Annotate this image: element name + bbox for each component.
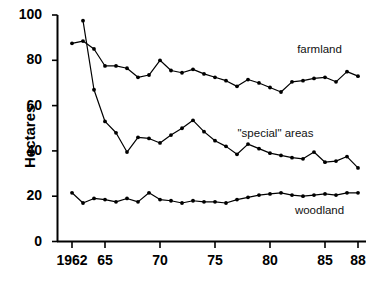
- series-marker-special-areas: [213, 139, 217, 143]
- series-marker-woodland: [103, 198, 107, 202]
- y-axis-tick-label: 80: [8, 51, 42, 67]
- series-marker-farmland: [290, 80, 294, 84]
- series-marker-woodland: [290, 193, 294, 197]
- series-marker-farmland: [334, 80, 338, 84]
- series-marker-woodland: [70, 191, 74, 195]
- series-marker-special-areas: [125, 150, 129, 154]
- series-marker-farmland: [191, 67, 195, 71]
- series-marker-woodland: [323, 192, 327, 196]
- series-marker-woodland: [224, 201, 228, 205]
- series-marker-farmland: [268, 86, 272, 90]
- x-axis-tick-label: 75: [185, 252, 245, 268]
- series-marker-farmland: [279, 90, 283, 94]
- series-marker-farmland: [312, 77, 316, 81]
- series-marker-woodland: [180, 201, 184, 205]
- y-axis-title: Hectares: [21, 105, 38, 168]
- series-marker-special-areas: [158, 141, 162, 145]
- series-marker-special-areas: [169, 133, 173, 137]
- series-marker-special-areas: [323, 160, 327, 164]
- series-marker-farmland: [356, 74, 360, 78]
- series-annotation-label: "special" areas: [238, 127, 314, 139]
- figure-container: Hectares 020406080100 1962657075808588 f…: [0, 0, 383, 289]
- series-marker-woodland: [312, 193, 316, 197]
- series-annotation-label: farmland: [297, 43, 342, 55]
- series-marker-special-areas: [334, 159, 338, 163]
- series-marker-special-areas: [312, 150, 316, 154]
- series-marker-farmland: [180, 71, 184, 75]
- series-marker-special-areas: [268, 151, 272, 155]
- series-marker-woodland: [114, 200, 118, 204]
- y-axis-tick-label: 60: [8, 97, 42, 113]
- x-axis-tick-label: 88: [328, 252, 383, 268]
- series-marker-farmland: [301, 79, 305, 83]
- series-marker-special-areas: [246, 142, 250, 146]
- series-marker-farmland: [169, 69, 173, 73]
- series-marker-farmland: [323, 75, 327, 79]
- series-marker-farmland: [213, 75, 217, 79]
- series-marker-woodland: [147, 191, 151, 195]
- series-marker-special-areas: [114, 131, 118, 135]
- series-marker-woodland: [125, 197, 129, 201]
- x-axis-tick-label: 65: [75, 252, 135, 268]
- series-marker-special-areas: [224, 144, 228, 148]
- series-marker-special-areas: [257, 147, 261, 151]
- y-axis-tick-label: 20: [8, 187, 42, 203]
- x-axis-tick-label: 70: [130, 252, 190, 268]
- series-marker-woodland: [191, 199, 195, 203]
- series-marker-woodland: [158, 198, 162, 202]
- series-marker-woodland: [268, 192, 272, 196]
- series-marker-woodland: [334, 193, 338, 197]
- series-marker-woodland: [246, 195, 250, 199]
- series-marker-farmland: [224, 79, 228, 83]
- series-marker-farmland: [103, 64, 107, 68]
- series-marker-special-areas: [279, 154, 283, 158]
- series-marker-woodland: [301, 194, 305, 198]
- series-marker-special-areas: [356, 166, 360, 170]
- series-marker-woodland: [202, 200, 206, 204]
- series-marker-woodland: [235, 198, 239, 202]
- series-marker-special-areas: [81, 19, 85, 23]
- series-marker-farmland: [345, 70, 349, 74]
- series-marker-special-areas: [301, 157, 305, 161]
- series-marker-woodland: [92, 197, 96, 201]
- series-annotation-label: woodland: [295, 204, 344, 216]
- y-axis-tick-label: 40: [8, 142, 42, 158]
- series-marker-woodland: [136, 200, 140, 204]
- series-marker-special-areas: [147, 137, 151, 141]
- series-marker-farmland: [136, 75, 140, 79]
- series-marker-farmland: [92, 47, 96, 51]
- series-marker-special-areas: [235, 152, 239, 156]
- series-marker-woodland: [81, 201, 85, 205]
- series-marker-special-areas: [136, 135, 140, 139]
- series-marker-woodland: [356, 191, 360, 195]
- series-marker-special-areas: [191, 118, 195, 122]
- series-marker-special-areas: [103, 120, 107, 124]
- series-marker-special-areas: [92, 88, 96, 92]
- x-axis-tick-label: 80: [240, 252, 300, 268]
- series-marker-woodland: [213, 200, 217, 204]
- series-marker-farmland: [70, 41, 74, 45]
- series-marker-special-areas: [290, 156, 294, 160]
- series-marker-special-areas: [345, 155, 349, 159]
- y-axis-tick-label: 100: [8, 6, 42, 22]
- series-marker-farmland: [202, 72, 206, 76]
- series-woodland: [70, 191, 360, 205]
- series-marker-farmland: [81, 39, 85, 43]
- series-marker-farmland: [158, 58, 162, 62]
- series-marker-farmland: [125, 66, 129, 70]
- series-marker-special-areas: [202, 130, 206, 134]
- y-axis-tick-label: 0: [8, 233, 42, 249]
- series-special-areas: [81, 19, 360, 170]
- series-marker-woodland: [345, 191, 349, 195]
- series-marker-farmland: [257, 81, 261, 85]
- series-marker-farmland: [114, 64, 118, 68]
- series-marker-woodland: [279, 191, 283, 195]
- series-marker-farmland: [235, 84, 239, 88]
- series-marker-farmland: [147, 73, 151, 77]
- series-marker-woodland: [169, 199, 173, 203]
- series-marker-special-areas: [180, 126, 184, 130]
- series-marker-woodland: [257, 193, 261, 197]
- series-marker-farmland: [246, 78, 250, 82]
